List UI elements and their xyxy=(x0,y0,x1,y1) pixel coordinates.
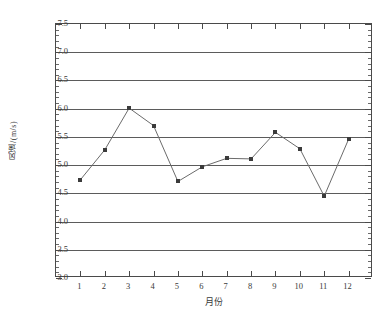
wind-speed-line-chart: 风速/(m/s) 7.57.06.56.05.55.04.54.03.53.0 … xyxy=(0,0,392,320)
data-point-marker xyxy=(152,124,156,128)
y-tick-label: 3.0 xyxy=(36,272,68,282)
y-major-tick-right xyxy=(365,278,371,279)
plot-area xyxy=(55,23,372,277)
y-tick-label: 6.5 xyxy=(36,74,68,84)
x-tick-label: 5 xyxy=(167,281,187,291)
y-tick-label: 3.5 xyxy=(36,244,68,254)
data-point-marker xyxy=(298,147,302,151)
x-tick-label: 7 xyxy=(216,281,236,291)
x-tick-label: 6 xyxy=(191,281,211,291)
data-point-marker xyxy=(273,130,277,134)
x-tick-label: 1 xyxy=(69,281,89,291)
data-point-marker xyxy=(322,194,326,198)
x-tick-label: 2 xyxy=(94,281,114,291)
y-tick-label: 6.0 xyxy=(36,103,68,113)
data-point-marker xyxy=(78,178,82,182)
x-tick-label: 4 xyxy=(143,281,163,291)
x-tick-label: 3 xyxy=(118,281,138,291)
x-tick-label: 12 xyxy=(338,281,358,291)
y-tick-label: 7.0 xyxy=(36,46,68,56)
data-point-marker xyxy=(249,157,253,161)
x-tick-label: 10 xyxy=(289,281,309,291)
data-point-marker xyxy=(127,106,131,110)
data-point-marker xyxy=(347,137,351,141)
y-axis-title: 风速/(m/s) xyxy=(0,0,26,280)
y-tick-label: 4.5 xyxy=(36,187,68,197)
x-tick-label: 11 xyxy=(313,281,333,291)
data-point-marker xyxy=(176,179,180,183)
y-tick-label: 4.0 xyxy=(36,216,68,226)
data-point-marker xyxy=(103,148,107,152)
x-tick-label: 8 xyxy=(240,281,260,291)
data-point-marker xyxy=(200,165,204,169)
x-tick-label: 9 xyxy=(264,281,284,291)
y-tick-label: 5.5 xyxy=(36,131,68,141)
y-tick-label: 7.5 xyxy=(36,18,68,28)
data-point-marker xyxy=(225,156,229,160)
y-tick-label: 5.0 xyxy=(36,159,68,169)
x-axis-title: 月份 xyxy=(55,295,372,308)
